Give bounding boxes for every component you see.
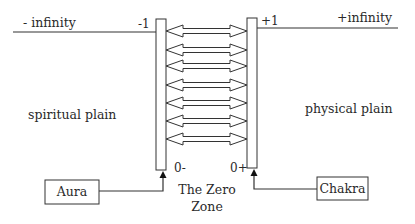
- double-arrow-icon: [166, 133, 247, 145]
- double-arrow-icon: [166, 97, 247, 109]
- right-axis-label: +infinity: [337, 10, 393, 25]
- double-arrow-icon: [166, 25, 247, 37]
- chakra-label: Chakra: [319, 181, 366, 196]
- chakra-arrowhead-icon: [251, 169, 258, 176]
- left-bar-top-label: -1: [138, 17, 150, 31]
- left-axis-label: - infinity: [23, 15, 77, 30]
- aura-label: Aura: [56, 184, 88, 199]
- aura-arrowhead-icon: [160, 171, 167, 178]
- double-arrows-group: [166, 25, 247, 145]
- double-arrow-icon: [166, 115, 247, 127]
- double-arrow-icon: [166, 60, 247, 72]
- right-bar: [247, 18, 257, 168]
- double-arrow-icon: [166, 44, 247, 56]
- zero-zone-diagram: - infinity +infinity -1 +1 0- 0+ spiritu…: [0, 0, 415, 224]
- left-bar: [156, 19, 166, 170]
- center-label-line2: Zone: [191, 199, 223, 214]
- left-bar-bottom-label: 0-: [174, 161, 186, 175]
- double-arrow-icon: [166, 79, 247, 91]
- right-bar-bottom-label: 0+: [230, 161, 248, 175]
- left-region-label: spiritual plain: [28, 107, 116, 122]
- aura-connector: [99, 177, 163, 191]
- right-bar-top-label: +1: [261, 14, 279, 28]
- chakra-connector: [254, 175, 317, 189]
- right-region-label: physical plain: [305, 101, 392, 116]
- center-label-line1: The Zero: [178, 182, 235, 197]
